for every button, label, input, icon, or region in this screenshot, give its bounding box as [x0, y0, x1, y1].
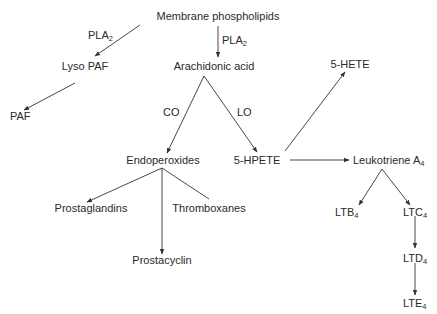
node-lte4: LTE4 [403, 297, 427, 313]
edge-5hpete-to-5hete [285, 72, 345, 151]
node-ltb4-base: LTB [335, 206, 354, 218]
node-paf: PAF [10, 110, 31, 123]
edge-label-pla2-down-sub: 2 [243, 39, 247, 48]
node-lte4-sub: 4 [422, 302, 426, 311]
node-thromboxanes: Thromboxanes [172, 202, 245, 215]
edge-label-pla2-down-base: PLA [222, 34, 243, 46]
edge-endoperoxides-to-thromboxanes [162, 168, 209, 199]
edge-label-pla2-left: PLA2 [88, 29, 113, 45]
node-ltc4-sub: 4 [423, 211, 427, 220]
pathway-diagram: Membrane phospholipids Lyso PAF PAF Arac… [0, 0, 437, 314]
node-5-hpete: 5-HPETE [234, 154, 280, 167]
node-ltd4-base: LTD [403, 252, 423, 264]
node-prostacyclin: Prostacyclin [132, 254, 191, 267]
node-prostaglandins: Prostaglandins [55, 202, 128, 215]
edge-label-co: CO [163, 106, 180, 119]
edge-label-pla2-left-base: PLA [88, 29, 109, 41]
edge-lysopaf-to-paf [24, 83, 75, 110]
node-endoperoxides: Endoperoxides [126, 154, 199, 167]
node-membrane-phospholipids: Membrane phospholipids [157, 10, 280, 23]
edge-label-lo: LO [237, 106, 252, 119]
node-lte4-base: LTE [403, 297, 422, 309]
node-leukotriene-a4-base: Leukotriene A [353, 154, 420, 166]
edge-lta4-to-ltb4 [359, 169, 382, 205]
edge-endoperoxides-to-prostaglandins [87, 168, 162, 202]
edge-lta4-to-ltc4 [382, 169, 410, 205]
node-lyso-paf: Lyso PAF [62, 60, 108, 73]
node-ltb4: LTB4 [335, 206, 359, 222]
node-ltb4-sub: 4 [354, 211, 358, 220]
node-ltc4: LTC4 [403, 206, 427, 222]
edge-label-pla2-left-sub: 2 [109, 34, 113, 43]
edge-label-pla2-down: PLA2 [222, 34, 247, 50]
node-ltd4: LTD4 [403, 252, 427, 268]
node-leukotriene-a4: Leukotriene A4 [353, 154, 424, 170]
node-leukotriene-a4-sub: 4 [420, 159, 424, 168]
node-ltc4-base: LTC [403, 206, 423, 218]
node-ltd4-sub: 4 [423, 257, 427, 266]
node-arachidonic-acid: Arachidonic acid [174, 60, 255, 73]
node-5-hete: 5-HETE [330, 58, 369, 71]
